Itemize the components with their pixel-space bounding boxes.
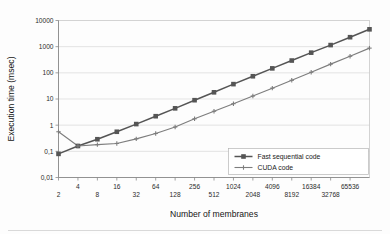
data-point-marker [231,102,235,106]
data-point-marker [348,54,352,58]
x-tick-label: 16 [113,183,121,190]
x-tick-label: 65536 [341,183,360,190]
data-point-marker [309,50,314,55]
data-point-marker [270,86,274,90]
x-tick-label: 128 [170,191,181,198]
data-point-marker [173,106,178,111]
data-point-marker [115,129,120,134]
y-axis-title: Execution time (msec) [6,56,16,141]
data-point-marker [270,66,275,71]
legend-marker-square-icon [241,154,246,159]
data-point-marker [153,131,157,135]
data-point-marker [367,27,372,32]
legend-label: CUDA code [258,164,294,171]
data-point-marker [95,137,100,142]
data-point-marker [348,35,353,40]
x-tick-label: 2048 [246,191,261,198]
x-tick-label: 8 [96,191,100,198]
data-point-marker [251,74,256,79]
y-tick-label: 1 [50,122,54,129]
data-point-marker [192,117,196,121]
data-point-marker [290,78,294,82]
y-tick-label: 10 [46,95,54,102]
data-point-marker [95,142,99,146]
data-point-marker [134,137,138,141]
x-tick-label: 2 [57,191,61,198]
x-axis-tick-labels: 2481632641282565121024204840968192163843… [57,183,360,199]
y-axis-tick-labels: 1000010001001010,10,01 [35,17,54,181]
data-point-marker [153,114,158,119]
x-tick-label: 16384 [302,183,321,190]
x-tick-label: 1024 [226,183,241,190]
x-tick-label: 32 [133,191,141,198]
data-point-marker [328,43,333,48]
x-tick-label: 32768 [321,191,340,198]
series-line-2 [59,48,370,146]
data-point-marker [231,82,236,87]
data-point-marker [115,141,119,145]
x-tick-label: 4096 [265,183,280,190]
legend-label: Fast sequential code [258,153,321,161]
figure-container: 1000010001001010,10,01 24816326412825651… [0,0,390,234]
y-tick-label: 1000 [39,43,54,50]
y-tick-label: 10000 [35,17,54,24]
y-tick-label: 0,1 [44,148,53,155]
data-point-marker [328,62,332,66]
data-point-marker [212,90,217,95]
x-tick-label: 4 [76,183,80,190]
x-tick-label: 256 [189,183,200,190]
data-point-marker [192,98,197,103]
data-point-marker [289,58,294,63]
y-tick-label: 0,01 [41,174,54,181]
x-tick-label: 8192 [284,191,299,198]
x-tick-label: 64 [152,183,160,190]
data-point-marker [134,122,139,127]
data-point-marker [251,94,255,98]
data-point-marker [56,152,61,157]
execution-time-chart: 1000010001001010,10,01 24816326412825651… [0,0,390,234]
chart-legend[interactable]: Fast sequential codeCUDA code [229,149,369,175]
x-tick-label: 512 [208,191,219,198]
data-point-marker [212,109,216,113]
y-tick-label: 100 [42,69,53,76]
data-point-marker [309,70,313,74]
x-axis-title: Number of membranes [170,209,258,219]
